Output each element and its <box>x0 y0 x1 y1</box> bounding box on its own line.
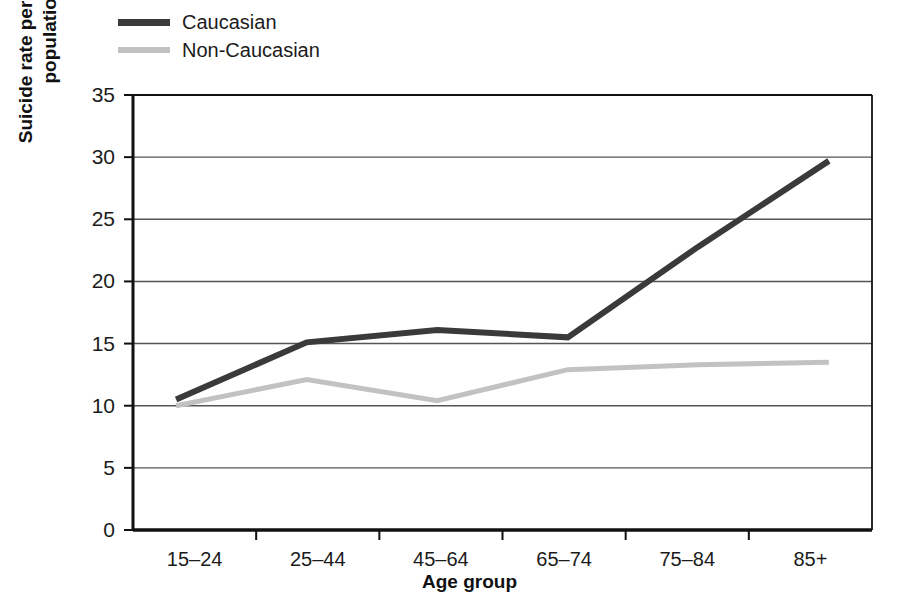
y-tick-label: 25 <box>71 208 115 229</box>
x-tick-label: 25–44 <box>258 549 378 569</box>
x-axis-title: Age group <box>0 571 899 593</box>
x-tick-label: 75–84 <box>627 549 747 569</box>
data-series <box>176 161 829 406</box>
series-line-non-caucasian <box>176 362 829 406</box>
x-tick-label: 65–74 <box>504 549 624 569</box>
x-tick-label: 45–64 <box>381 549 501 569</box>
x-axis-title-text: Age group <box>422 571 517 593</box>
gridlines <box>133 95 872 530</box>
x-tick-label: 85+ <box>750 549 870 569</box>
y-tick-label: 35 <box>71 84 115 105</box>
y-tick-label: 15 <box>71 333 115 354</box>
x-axis-ticks <box>124 95 749 540</box>
axis-frame <box>133 95 872 530</box>
plot-area: Suicide rate per 100,000 population 0510… <box>0 0 899 609</box>
y-tick-label: 5 <box>71 457 115 478</box>
y-tick-label: 30 <box>71 146 115 167</box>
y-tick-label: 20 <box>71 270 115 291</box>
y-tick-label: 0 <box>71 519 115 540</box>
y-tick-label: 10 <box>71 395 115 416</box>
chart-canvas <box>0 0 899 609</box>
figure: Caucasian Non-Caucasian Suicide rate per… <box>0 0 899 609</box>
x-tick-label: 15–24 <box>135 549 255 569</box>
